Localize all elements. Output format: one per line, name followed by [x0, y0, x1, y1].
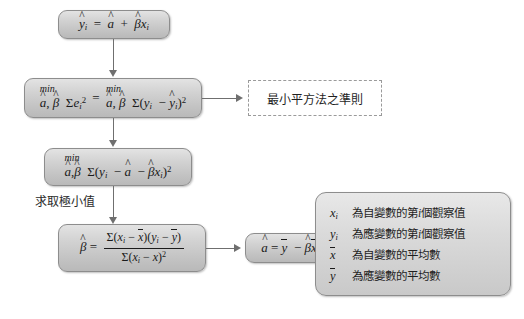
legend-symbol: y — [330, 269, 345, 284]
connector-sse-to-criterion — [202, 98, 238, 99]
arrow-beta-to-alpha-head — [234, 244, 241, 252]
connector-expanded-to-beta — [113, 186, 114, 221]
legend-symbol: x — [330, 248, 345, 263]
connector-beta-to-alpha — [206, 248, 236, 249]
sse-equivalence-formula: min a, β Σei2 = min a, β Σ(yi − yi)2 — [40, 84, 186, 112]
beta-hat-fraction: Σ(xi − x)(yi − y) Σ(xi − x)2 — [104, 230, 184, 266]
expanded-objective-box: min a,β Σ(yi − a − βxi)2 — [44, 148, 192, 186]
legend-item: xi 為自變數的第i個觀察值 — [330, 204, 465, 221]
beta-hat-formula: β = Σ(xi − x)(yi − y) Σ(xi − x)2 — [80, 230, 184, 266]
arrow-sse-to-criterion-head — [236, 94, 243, 102]
legend-symbol: yi — [330, 227, 345, 242]
alpha-hat-formula: a = y − βx — [261, 241, 316, 256]
symbol-legend-box: xi 為自變數的第i個觀察值 yi 為應變數的第i個觀察值 x 為自變數的平均數… — [315, 192, 511, 296]
legend-item: y 為應變數的平均數 — [330, 267, 465, 284]
legend-text: 為自變數的平均數 — [352, 246, 440, 262]
minimize-note-label: 求取極小值 — [35, 192, 95, 209]
beta-hat-denominator: Σ(xi − x)2 — [104, 248, 184, 266]
arrow-line-to-sse-head — [109, 70, 117, 77]
legend-text: 為自變數的第i個觀察值 — [352, 204, 465, 220]
beta-hat-box: β = Σ(xi − x)(yi − y) Σ(xi − x)2 — [58, 224, 206, 272]
beta-hat-numerator: Σ(xi − x)(yi − y) — [104, 230, 184, 247]
expanded-min-label: min — [64, 153, 171, 163]
criterion-note-box: 最小平方法之準則 — [248, 80, 382, 116]
regression-line-formula: yi = a + βxi — [79, 17, 149, 33]
arrow-expanded-to-beta-head — [109, 217, 117, 224]
sse-lhs: min a, β Σei2 — [40, 84, 86, 112]
legend-item: yi 為應變數的第i個觀察值 — [330, 225, 465, 242]
expanded-objective-formula: min a,β Σ(yi − a − βxi)2 — [64, 153, 171, 181]
legend-text: 為應變數的平均數 — [352, 267, 440, 283]
sse-min-label-left: min — [40, 84, 86, 94]
connector-line-to-sse — [113, 39, 114, 73]
symbol-legend-list: xi 為自變數的第i個觀察值 yi 為應變數的第i個觀察值 x 為自變數的平均數… — [316, 200, 465, 289]
arrow-sse-to-expanded-head — [109, 140, 117, 147]
sse-equivalence-box: min a, β Σei2 = min a, β Σ(yi − yi)2 — [24, 78, 202, 118]
sse-rhs: min a, β Σ(yi − yi)2 — [106, 84, 186, 112]
regression-line-box: yi = a + βxi — [58, 10, 170, 39]
criterion-note-text: 最小平方法之準則 — [267, 90, 363, 107]
legend-text: 為應變數的第i個觀察值 — [352, 225, 465, 241]
legend-item: x 為自變數的平均數 — [330, 246, 465, 263]
diagram-canvas: yi = a + βxi min a, β Σei2 = min a, β — [0, 0, 524, 319]
legend-symbol: xi — [330, 206, 345, 221]
expanded-objective-stack: min a,β Σ(yi − a − βxi)2 — [64, 153, 171, 181]
